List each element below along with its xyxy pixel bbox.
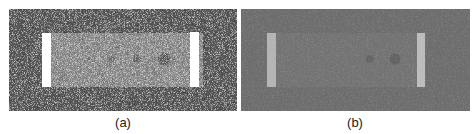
left-bar xyxy=(267,33,276,87)
left-bar xyxy=(42,33,51,87)
caption-a: (a) xyxy=(93,115,153,130)
panel-b-image xyxy=(241,9,470,111)
caption-b: (b) xyxy=(325,115,385,130)
panel-a-image xyxy=(9,9,237,111)
right-bar xyxy=(190,32,199,87)
right-bar xyxy=(417,33,425,87)
